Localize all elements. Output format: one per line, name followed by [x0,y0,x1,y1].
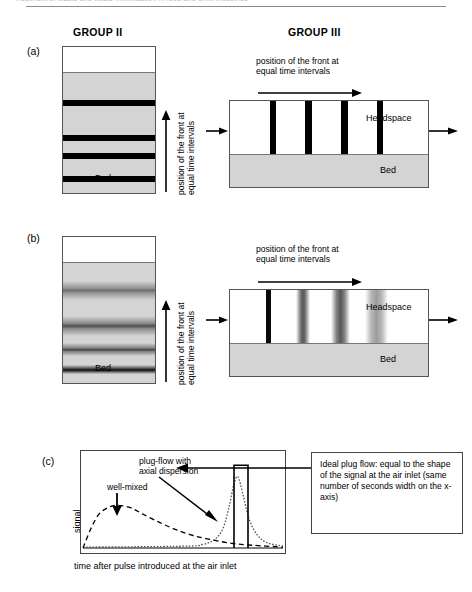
panel-b-group2-band-2 [63,316,155,336]
panel-b-inlet-arrow [206,315,229,325]
panel-b-group2-gas [63,237,155,262]
panel-b-group3-headspace-label: Headspace [366,302,412,312]
panel-a-group2-caption-l2: equal time intervals [186,121,196,195]
ideal-plugflow-textbox-text: Ideal plug flow: equal to the shape of t… [320,459,456,503]
panel-b-group2-bed-label: Bed [95,363,111,373]
panel-a-group2-band-3 [63,153,155,159]
panel-c-x-axis-label: time after pulse introduced at the air i… [74,561,237,571]
panel-b-group2-caption-l2: equal time intervals [186,311,196,385]
panel-c-letter: (c) [42,455,54,467]
panel-b-group2-caption: position of the front atequal time inter… [176,302,196,385]
panel-b-group3-band-1 [266,290,271,343]
panel-b-group3-bed-label: Bed [380,354,396,364]
panel-a-group3-caption-l2: equal time intervals [256,66,330,77]
panel-b-group3-caption-l1: position of the front at [256,244,339,255]
panel-a-group3-vessel: Headspace Bed [229,100,429,188]
ideal-plugflow-textbox: Ideal plug flow: equal to the shape of t… [311,452,463,534]
panel-a-group3-band-3 [341,101,348,154]
panel-b-letter: (b) [27,232,40,244]
panel-b-group3-headspace [230,290,428,343]
panel-a-group3-band-1 [270,101,277,154]
ideal-plugflow-callout-arrow [168,462,313,474]
panel-b-group3-caption-l2: equal time intervals [256,254,330,265]
panel-b-group3-band-4 [365,290,389,343]
wellmixed-pointer-arrow [111,493,123,517]
panel-a-group2-caption-l1: position of the front at [176,112,186,195]
panel-b-outlet-arrow [429,315,459,325]
header-rule [26,6,446,7]
panel-b-group2-band-1 [63,281,155,300]
panel-a-outlet-arrow [429,126,459,136]
panel-a-letter: (a) [27,45,40,57]
panel-a-group2-gas [63,47,155,72]
panel-a-group2-direction-arrow [160,110,172,192]
panel-b-group3-band-2 [296,290,310,343]
panel-a-group3-headspace-label: Headspace [366,113,412,123]
plugflow-pointer-arrow [159,477,221,525]
panel-a-group3-band-2 [305,101,312,154]
panel-b-group3-vessel: Headspace Bed [229,289,429,377]
panel-a-inlet-arrow [206,126,229,136]
wellmixed-annotation: well-mixed [107,482,148,493]
panel-b-group2-column: Bed [62,236,156,384]
panel-b-group2-direction-arrow [160,300,172,382]
running-head: Treatment of waste and waste minimisatio… [0,0,472,7]
panel-b-group3-bed [230,343,428,376]
panel-a-group2-band-2 [63,135,155,141]
group-iii-header: GROUP III [288,26,341,38]
panel-a-group3-band-4 [377,101,384,154]
panel-a-group3-bed-label: Bed [380,165,396,175]
panel-a-group3-bed [230,154,428,187]
group-ii-header: GROUP II [73,26,122,38]
panel-a-group2-bed-label: Bed [95,173,111,183]
panel-b-group2-band-3 [63,343,155,356]
panel-a-group3-caption-l1: position of the front at [256,56,339,67]
panel-b-group3-direction-arrow [258,277,363,287]
panel-a-group2-band-1 [63,100,155,106]
panel-a-group2-column: Bed [62,46,156,194]
panel-a-group3-headspace [230,101,428,154]
running-head-text: Treatment of waste and waste minimisatio… [14,0,248,2]
panel-b-group3-band-3 [331,290,350,343]
panel-a-group2-caption: position of the front atequal time inter… [176,112,196,195]
panel-b-group2-caption-l1: position of the front at [176,302,186,385]
panel-a-group3-direction-arrow [258,88,363,98]
